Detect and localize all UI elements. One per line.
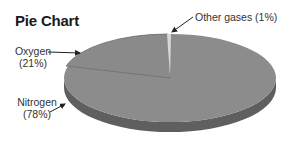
label-other-gases: Other gases (1%) [195, 11, 277, 23]
label-oxygen: Oxygen (21%) [12, 45, 54, 69]
label-oxygen-name: Oxygen [12, 45, 54, 57]
arrow-other-gases [172, 17, 193, 32]
label-nitrogen-value: (78%) [14, 108, 60, 120]
label-nitrogen: Nitrogen (78%) [14, 96, 60, 120]
label-oxygen-value: (21%) [12, 57, 54, 69]
label-nitrogen-name: Nitrogen [14, 96, 60, 108]
